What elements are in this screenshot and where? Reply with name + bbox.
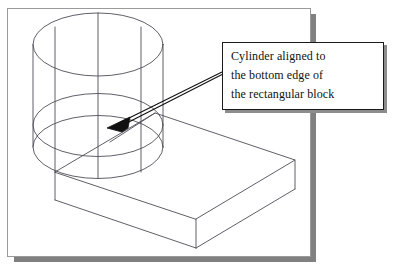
figure-canvas: Cylinder aligned to the bottom edge of t… <box>0 0 394 266</box>
callout-line-3: the rectangular block <box>231 85 377 104</box>
isometric-wireframe-drawing <box>0 0 394 266</box>
callout-line-1: Cylinder aligned to <box>231 47 377 66</box>
callout-line-2: the bottom edge of <box>231 66 377 85</box>
callout-box: Cylinder aligned to the bottom edge of t… <box>222 42 384 110</box>
